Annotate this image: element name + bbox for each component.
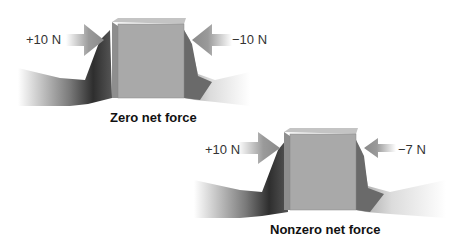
box-side <box>112 22 118 98</box>
left-force-label: +10 N <box>205 142 240 157</box>
caption: Zero net force <box>110 110 197 125</box>
caption: Nonzero net force <box>270 222 381 237</box>
right-arrow <box>364 138 396 158</box>
left-force-label: +10 N <box>26 32 61 47</box>
box-front <box>118 24 184 98</box>
right-arrow <box>192 24 232 56</box>
left-arrow <box>238 132 280 164</box>
box-top <box>284 128 358 134</box>
box-front <box>290 134 356 210</box>
right-force-label: −10 N <box>232 32 267 47</box>
box-side <box>284 132 290 210</box>
box-top <box>112 18 186 24</box>
right-force-label: −7 N <box>398 142 426 157</box>
